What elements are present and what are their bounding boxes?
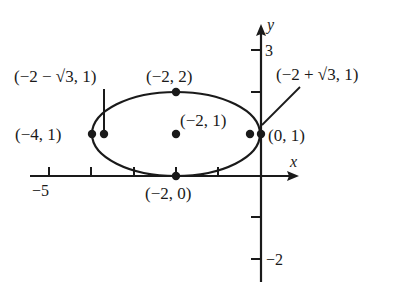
points	[88, 88, 265, 180]
y-axis	[251, 24, 266, 282]
label-right-focus: (−2 + √3, 1)	[276, 65, 358, 84]
label-left-focus: (−2 − √3, 1)	[14, 67, 96, 86]
x-axis-label: x	[289, 153, 297, 170]
label-bottom: (−2, 0)	[145, 184, 191, 203]
x-axis	[30, 167, 299, 181]
y-axis-label: y	[265, 16, 275, 34]
label-left-vertex: (−4, 1)	[15, 125, 61, 144]
ellipse-diagram: y x −5 3 −2 (−2 − √3, 1) (−2, 2) (−2 + √…	[0, 0, 404, 303]
tick-label-y-3: 3	[265, 42, 273, 59]
point-top	[172, 88, 180, 96]
point-right-focus	[246, 130, 254, 138]
label-center: (−2, 1)	[180, 111, 226, 130]
label-top: (−2, 2)	[146, 67, 192, 86]
point-left-focus	[100, 130, 108, 138]
label-right-vertex: (0, 1)	[268, 126, 305, 145]
tick-label-y-minus2: −2	[266, 251, 283, 268]
tick-label-x-minus5: −5	[32, 182, 49, 199]
point-right-vertex	[257, 130, 265, 138]
point-left-vertex	[88, 130, 96, 138]
point-bottom	[172, 172, 180, 180]
point-center	[172, 130, 180, 138]
right-focus-leader	[262, 87, 300, 125]
